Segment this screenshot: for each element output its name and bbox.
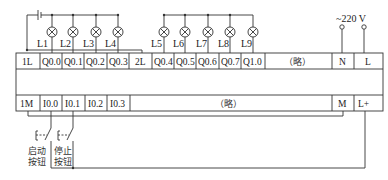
plc-body: 1L Q0.0 Q0.1 Q0.2 Q0.3 2L Q0.4 Q0.5 Q0.6… (16, 53, 383, 111)
lamp-label: L5 (151, 38, 162, 49)
terminal-L+: L+ (358, 99, 369, 109)
lamp-label: L6 (173, 38, 184, 49)
plc-wiring-diagram: L1 L2 L3 L4 (0, 0, 388, 180)
terminal-Q0.7: Q0.7 (221, 57, 240, 67)
stop-button: 停止 按钮 (54, 111, 73, 168)
terminal-1M: 1M (20, 99, 34, 109)
terminal-Q0.1: Q0.1 (64, 57, 83, 67)
terminal-Q0.4: Q0.4 (154, 57, 173, 67)
lamp-L4: L4 (105, 14, 123, 53)
terminal-N: N (339, 57, 346, 67)
lamp-label: L3 (83, 38, 94, 49)
lamp-L8: L8 (218, 14, 235, 53)
terminal-N-icon (340, 25, 344, 29)
terminal-Q0.0: Q0.0 (42, 57, 61, 67)
supply-label: ~220 V (336, 13, 367, 24)
stop-button-label-2: 按钮 (54, 156, 72, 167)
terminal-M: M (338, 99, 347, 109)
terminal-Q0.3: Q0.3 (109, 57, 128, 67)
lamp-L3: L3 (83, 14, 101, 53)
start-button-label-2: 按钮 (28, 156, 46, 167)
terminal-L-icon (362, 25, 366, 29)
terminal-1L: 1L (22, 57, 33, 67)
lamp-label: L2 (60, 38, 71, 49)
lamp-L6: L6 (173, 14, 190, 53)
lamp-L1: L1 (37, 14, 57, 53)
lamp-L5: L5 (151, 14, 169, 53)
terminal-Q0.6: Q0.6 (198, 57, 217, 67)
lamp-label: L7 (196, 38, 207, 49)
lamp-label: L4 (105, 38, 116, 49)
lamp-L7: L7 (196, 14, 213, 53)
terminal-2L: 2L (135, 57, 146, 67)
omitted-label: （略） (284, 56, 311, 67)
terminal-I0.0: I0.0 (43, 99, 58, 109)
lamp-label: L8 (218, 38, 229, 49)
lamp-L9: L9 (241, 20, 258, 53)
terminal-L: L (365, 57, 371, 67)
lamp-label: L9 (241, 38, 252, 49)
omitted-label: （略） (215, 98, 242, 109)
lamp-label: L1 (37, 38, 48, 49)
lamp-group-2: L5 L6 L7 L8 (151, 14, 258, 53)
lamp-L2: L2 (60, 14, 78, 53)
terminal-I0.1: I0.1 (65, 99, 80, 109)
lamp-group-1: L1 L2 L3 L4 (37, 14, 123, 53)
switch-contact-icon (67, 128, 73, 140)
terminal-Q0.2: Q0.2 (86, 57, 105, 67)
stop-button-label-1: 停止 (54, 145, 72, 156)
start-button-label-1: 启动 (28, 145, 46, 156)
power-supply: ~220 V (336, 13, 367, 53)
terminal-I0.3: I0.3 (110, 99, 125, 109)
input-wiring: 启动 按钮 停止 按钮 (28, 111, 365, 169)
switch-contact-icon (45, 128, 51, 140)
terminal-Q1.0: Q1.0 (243, 57, 262, 67)
terminal-Q0.5: Q0.5 (176, 57, 195, 67)
terminal-I0.2: I0.2 (88, 99, 103, 109)
